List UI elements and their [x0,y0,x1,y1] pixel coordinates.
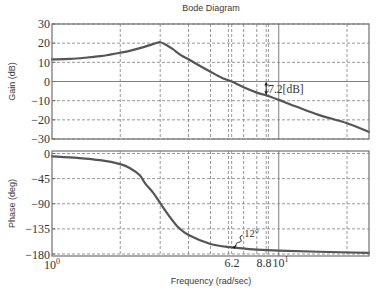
phase-y-axis-label: Phase (deg) [7,179,17,228]
phase-tick-label: −135 [25,222,50,236]
tick-base: 10 [44,258,56,272]
tick-exponent: 1 [285,255,289,264]
gain-y-axis-label: Gain (dB) [7,62,17,101]
gain-margin-label: 7.2[dB] [268,83,303,95]
bode-diagram: Bode Diagram 7.2[dB] Gain (dB) 30 20 10 … [0,0,377,291]
phase-margin-label: 12° [244,228,259,239]
x-axis-label: Frequency (rad/sec) [171,276,252,286]
gain-tick-label: −10 [31,94,50,108]
gain-tick-label: 0 [44,75,50,89]
chart-title: Bode Diagram [182,3,240,13]
gain-tick-label: −30 [31,132,50,146]
tick-exponent: 0 [56,257,60,266]
gain-margin-annotation: 7.2[dB] [264,82,303,96]
gain-tick-label: −20 [31,113,50,127]
x-tick-label-8-8: 8.8 [257,256,272,270]
gain-tick-label: 20 [38,36,50,50]
x-tick-label-6-2: 6.2 [225,256,240,270]
gain-tick-label: 30 [38,17,50,31]
phase-tick-label: −45 [31,172,50,186]
phase-tick-label: 0 [44,147,50,161]
gain-tick-label: 10 [38,56,50,70]
tick-base: 10 [273,256,285,270]
phase-tick-label: −90 [31,197,50,211]
